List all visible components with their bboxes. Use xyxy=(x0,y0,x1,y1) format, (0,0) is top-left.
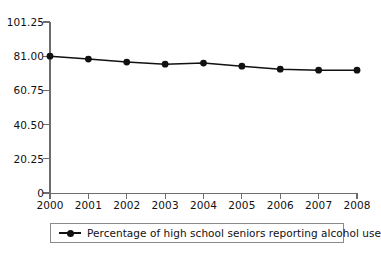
data-point xyxy=(200,60,207,67)
legend-label-alcohol-use: Percentage of high school seniors report… xyxy=(87,227,381,239)
data-point xyxy=(47,53,54,60)
data-point xyxy=(354,67,361,74)
data-point xyxy=(315,67,322,74)
data-point xyxy=(85,56,92,63)
data-point xyxy=(162,61,169,68)
data-point xyxy=(277,66,284,73)
legend-marker-icon xyxy=(59,228,81,238)
data-point xyxy=(123,59,130,66)
legend: Percentage of high school seniors report… xyxy=(50,223,344,243)
data-point xyxy=(238,63,245,70)
